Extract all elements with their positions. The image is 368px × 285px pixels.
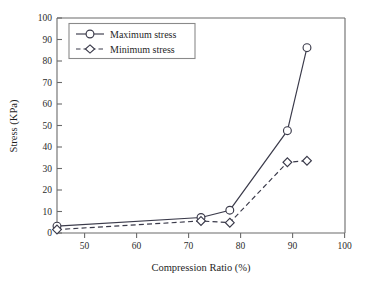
- legend-entry-maximum-stress: Maximum stress: [76, 29, 176, 40]
- y-tick-label: 50: [43, 121, 53, 131]
- y-tick-label: 30: [43, 164, 53, 174]
- x-axis-title: Compression Ratio (%): [151, 262, 251, 274]
- x-tick-label: 100: [337, 241, 352, 251]
- maximum-stress-point: [284, 127, 292, 135]
- x-tick-label: 80: [236, 241, 246, 251]
- y-tick-label: 0: [47, 228, 52, 238]
- legend-label: Minimum stress: [110, 44, 175, 55]
- y-tick-label: 70: [43, 78, 53, 88]
- y-tick-label: 10: [43, 207, 53, 217]
- y-tick-label: 100: [38, 13, 53, 23]
- y-tick-label: 20: [43, 185, 53, 195]
- x-tick-label: 50: [80, 241, 90, 251]
- y-axis-title: Stress (KPa): [8, 99, 20, 152]
- x-tick-label: 70: [184, 241, 194, 251]
- chart-legend: Maximum stress Minimum stress: [69, 24, 195, 59]
- stress-vs-compression-ratio-line-chart: 0 10 20 30 40 50 60 70 80 90 100 50: [0, 0, 368, 285]
- maximum-stress-point: [303, 44, 311, 52]
- x-tick-label: 90: [288, 241, 298, 251]
- circle-open-icon: [86, 30, 94, 38]
- y-tick-label: 80: [43, 56, 53, 66]
- maximum-stress-point: [226, 206, 234, 214]
- y-tick-label: 90: [43, 35, 53, 45]
- x-tick-label: 60: [132, 241, 142, 251]
- y-tick-label: 40: [43, 142, 53, 152]
- legend-entry-minimum-stress: Minimum stress: [76, 44, 175, 55]
- chart-figure: 0 10 20 30 40 50 60 70 80 90 100 50: [0, 0, 368, 285]
- y-tick-label: 60: [43, 99, 53, 109]
- legend-label: Maximum stress: [110, 29, 176, 40]
